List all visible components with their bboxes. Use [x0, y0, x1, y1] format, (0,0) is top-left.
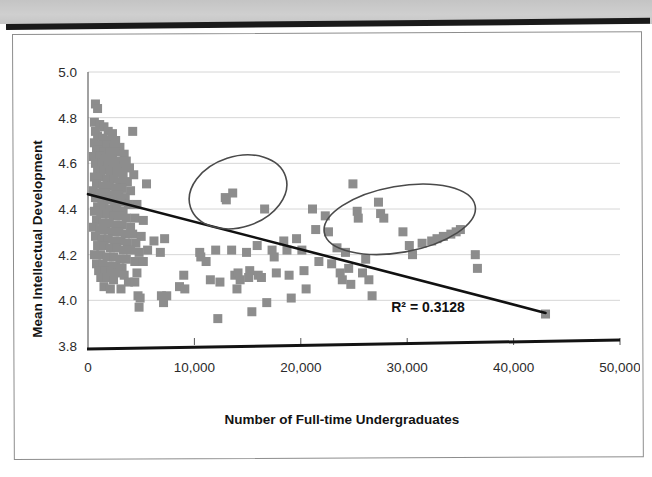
data-point-marker — [253, 241, 262, 250]
data-point-marker — [314, 257, 323, 266]
data-point-marker — [471, 250, 480, 259]
data-point-marker — [142, 179, 151, 188]
data-point-marker — [346, 280, 355, 289]
x-axis-title: Number of Full-time Undergraduates — [225, 412, 460, 427]
x-tick-label: 0 — [84, 360, 92, 375]
y-tick-label: 4.4 — [58, 202, 77, 217]
scatter-chart: 3.84.04.24.44.64.85.0 010,00020,00030,00… — [12, 34, 640, 458]
data-point-marker — [311, 225, 320, 234]
data-point-marker — [398, 227, 407, 236]
data-point-marker — [206, 275, 215, 284]
data-point-marker — [160, 234, 169, 243]
data-point-marker — [93, 104, 102, 113]
data-point-marker — [143, 246, 152, 255]
data-point-marker — [130, 278, 139, 287]
data-point-marker — [232, 284, 241, 293]
data-point-marker — [130, 257, 139, 266]
data-point-marker — [292, 234, 301, 243]
data-point-marker — [327, 259, 336, 268]
data-point-marker — [228, 189, 237, 198]
data-point-marker — [405, 241, 414, 250]
data-point-marker — [242, 248, 251, 257]
data-point-marker — [159, 298, 168, 307]
data-point-marker — [156, 248, 165, 257]
data-point-marker — [109, 275, 118, 284]
y-tick-label: 3.8 — [58, 339, 77, 354]
data-point-marker — [473, 264, 482, 273]
data-point-marker — [227, 246, 236, 255]
y-tick-label: 5.0 — [58, 65, 77, 80]
data-point-marker — [299, 266, 308, 275]
x-tick-label: 20,000 — [280, 360, 321, 375]
data-point-marker — [135, 303, 144, 312]
scanned-page: 3.84.04.24.44.64.85.0 010,00020,00030,00… — [0, 0, 652, 477]
data-point-marker — [368, 291, 377, 300]
data-point-marker — [270, 252, 279, 261]
data-point-marker — [128, 127, 137, 136]
data-point-marker — [116, 284, 125, 293]
y-tick-label: 4.0 — [58, 293, 77, 308]
y-tick-label: 4.6 — [58, 156, 77, 171]
data-point-marker — [139, 257, 148, 266]
data-point-marker — [211, 246, 220, 255]
chart-canvas: 3.84.04.24.44.64.85.0 010,00020,00030,00… — [12, 34, 640, 458]
y-tick-label: 4.2 — [58, 248, 77, 263]
x-tick-label: 50,000 — [599, 360, 640, 375]
data-point-marker — [136, 294, 145, 303]
ellipse-cluster-left — [180, 143, 297, 241]
y-axis-tick-labels: 3.84.04.24.44.64.85.0 — [58, 65, 77, 354]
data-point-marker — [132, 268, 141, 277]
x-tick-label: 30,000 — [387, 360, 428, 375]
y-axis-title: Mean Intellectual Development — [30, 140, 45, 338]
x-tick-label: 40,000 — [493, 360, 534, 375]
data-point-marker — [338, 275, 347, 284]
data-point-marker — [418, 239, 427, 248]
data-point-marker — [247, 307, 256, 316]
data-point-marker — [179, 271, 188, 280]
data-point-marker — [215, 278, 224, 287]
data-point-marker — [364, 275, 373, 284]
data-point-marker — [106, 284, 115, 293]
data-point-marker — [379, 214, 388, 223]
data-point-marker — [257, 273, 266, 282]
data-point-marker — [302, 284, 311, 293]
data-point-marker — [272, 268, 281, 277]
data-point-marker — [354, 214, 363, 223]
data-point-marker — [180, 284, 189, 293]
data-point-marker — [344, 264, 353, 273]
r-squared-label: R² = 0.3128 — [391, 299, 465, 315]
data-point-marker — [374, 198, 383, 207]
data-point-marker — [361, 255, 370, 264]
data-point-marker — [128, 230, 137, 239]
data-point-marker — [285, 271, 294, 280]
data-point-marker — [130, 214, 139, 223]
y-tick-label: 4.8 — [58, 111, 77, 126]
data-point-marker — [260, 205, 269, 214]
x-axis-line — [87, 340, 620, 349]
data-point-marker — [149, 236, 158, 245]
data-point-marker — [213, 314, 222, 323]
x-tick-label: 10,000 — [174, 360, 215, 375]
data-point-marker — [287, 294, 296, 303]
data-point-marker — [308, 205, 317, 214]
data-point-marker — [348, 179, 357, 188]
data-point-marker — [262, 298, 271, 307]
data-point-marker — [236, 275, 245, 284]
data-point-marker — [139, 216, 148, 225]
data-point-marker — [202, 257, 211, 266]
x-axis-tick-labels: 010,00020,00030,00040,00050,000 — [84, 360, 640, 375]
data-point-marker — [126, 246, 135, 255]
data-point-marker — [122, 255, 131, 264]
data-point-marker — [244, 273, 253, 282]
data-point-marker — [135, 248, 144, 257]
